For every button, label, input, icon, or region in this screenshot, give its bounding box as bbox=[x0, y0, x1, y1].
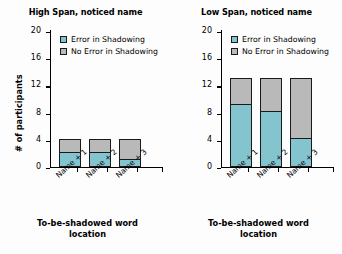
y-tick-label: 20 bbox=[202, 26, 212, 35]
y-tick-label: 8 bbox=[36, 108, 41, 117]
y-axis-line bbox=[221, 30, 222, 168]
x-axis-title-line1: To-be-shadowed word bbox=[20, 218, 155, 229]
bar-segment-no-error bbox=[260, 78, 282, 112]
y-tick-12: 12 bbox=[46, 86, 50, 87]
y-tick-8: 8 bbox=[46, 114, 50, 115]
y-tick-20: 20 bbox=[217, 32, 221, 33]
legend: Error in Shadowing No Error in Shadowing bbox=[60, 33, 158, 57]
panel-title: High Span, noticed name bbox=[0, 7, 171, 17]
legend-swatch-icon bbox=[60, 36, 67, 43]
x-tick bbox=[107, 168, 108, 172]
legend-swatch-icon bbox=[60, 48, 67, 55]
y-axis-line bbox=[50, 30, 51, 168]
panel-title: Low Span, noticed name bbox=[171, 7, 342, 17]
y-tick-label: 4 bbox=[207, 135, 212, 144]
x-tick bbox=[162, 168, 163, 172]
chart-panel-low-span: Low Span, noticed name 20 16 12 8 4 0 bbox=[171, 0, 342, 254]
y-tick-label: 0 bbox=[207, 162, 212, 171]
x-axis-title: To-be-shadowed word location bbox=[20, 218, 155, 240]
x-tick bbox=[248, 168, 249, 172]
bar-segment-no-error bbox=[290, 78, 312, 139]
y-tick-16: 16 bbox=[46, 59, 50, 60]
legend-item-no-error: No Error in Shadowing bbox=[60, 45, 158, 57]
bar-segment-no-error bbox=[230, 78, 252, 105]
y-tick-4: 4 bbox=[46, 141, 50, 142]
legend-item-no-error: No Error in Shadowing bbox=[231, 45, 329, 57]
legend-item-error: Error in Shadowing bbox=[60, 33, 158, 45]
x-tick bbox=[137, 168, 138, 172]
y-tick-20: 20 bbox=[46, 32, 50, 33]
y-tick-label: 12 bbox=[202, 80, 212, 89]
y-tick-8: 8 bbox=[217, 114, 221, 115]
x-axis-title: To-be-shadowed word location bbox=[191, 218, 326, 240]
y-tick-12: 12 bbox=[217, 86, 221, 87]
legend-label: Error in Shadowing bbox=[242, 35, 316, 44]
y-tick-16: 16 bbox=[217, 59, 221, 60]
x-axis-title-line2: location bbox=[20, 229, 155, 240]
legend: Error in Shadowing No Error in Shadowing bbox=[231, 33, 329, 57]
y-tick-label: 8 bbox=[207, 108, 212, 117]
y-tick-label: 16 bbox=[31, 53, 41, 62]
y-tick-0: 0 bbox=[217, 168, 221, 169]
y-tick-label: 4 bbox=[36, 135, 41, 144]
legend-swatch-icon bbox=[231, 36, 238, 43]
x-tick bbox=[308, 168, 309, 172]
legend-item-error: Error in Shadowing bbox=[231, 33, 329, 45]
legend-swatch-icon bbox=[231, 48, 238, 55]
y-axis-title: # of participants bbox=[14, 74, 24, 152]
y-tick-label: 0 bbox=[36, 162, 41, 171]
chart-panel-high-span: High Span, noticed name # of participant… bbox=[0, 0, 171, 254]
x-axis-title-line2: location bbox=[191, 229, 326, 240]
legend-label: Error in Shadowing bbox=[71, 35, 145, 44]
legend-label: No Error in Shadowing bbox=[242, 47, 329, 56]
y-tick-label: 12 bbox=[31, 80, 41, 89]
x-tick bbox=[77, 168, 78, 172]
y-tick-4: 4 bbox=[217, 141, 221, 142]
x-tick bbox=[333, 168, 334, 172]
y-tick-0: 0 bbox=[46, 168, 50, 169]
x-axis-title-line1: To-be-shadowed word bbox=[191, 218, 326, 229]
x-tick bbox=[278, 168, 279, 172]
legend-label: No Error in Shadowing bbox=[71, 47, 158, 56]
y-tick-label: 20 bbox=[31, 26, 41, 35]
y-tick-label: 16 bbox=[202, 53, 212, 62]
figure: High Span, noticed name # of participant… bbox=[0, 0, 342, 254]
